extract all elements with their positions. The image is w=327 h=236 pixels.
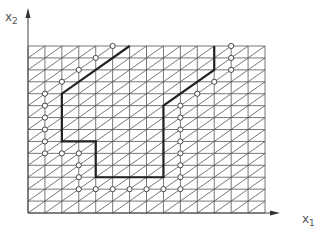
grid-diagonal-line [147, 118, 164, 130]
grid-diagonal-line [130, 46, 147, 58]
grid-diagonal-line [147, 165, 164, 177]
grid-diagonal-line [96, 130, 113, 142]
grid-diagonal-line [79, 153, 96, 165]
grid-diagonal-line [180, 177, 197, 189]
grid-diagonal-line [163, 177, 180, 189]
node-circle-icon [178, 115, 183, 120]
grid-diagonal-line [163, 130, 180, 142]
x-axis-label: x1 [302, 212, 315, 228]
node-circle-icon [93, 55, 98, 60]
grid-diagonal-line [248, 106, 265, 118]
node-circle-icon [42, 151, 47, 156]
grid-diagonal-line [96, 46, 113, 58]
grid-diagonal-line [163, 118, 180, 130]
grid-diagonal-line [113, 165, 130, 177]
grid-diagonal-line [62, 46, 79, 58]
grid-diagonal-line [248, 46, 265, 58]
grid-diagonal-line [62, 165, 79, 177]
grid-diagonal-line [45, 58, 62, 70]
node-circle-icon [178, 127, 183, 132]
grid-diagonal-line [214, 70, 231, 82]
grid-diagonal-line [147, 46, 164, 58]
grid-diagonal-line [130, 70, 147, 82]
grid-diagonal-line [28, 177, 45, 189]
grid-diagonal-line [147, 82, 164, 94]
node-circle-icon [76, 151, 81, 156]
grid-diagonal-line [231, 118, 248, 130]
grid-diagonal-line [197, 82, 214, 94]
grid-diagonal-line [147, 189, 164, 201]
grid-diagonal-line [28, 70, 45, 82]
grid-diagonal-line [45, 94, 62, 106]
grid-diagonal-line [79, 82, 96, 94]
node-circle-icon [161, 187, 166, 192]
grid-diagonal-line [231, 177, 248, 189]
grid-diagonal-line [96, 94, 113, 106]
grid-diagonal-line [96, 118, 113, 130]
node-circle-icon [42, 103, 47, 108]
grid-diagonal-line [248, 58, 265, 70]
grid-diagonal-line [79, 118, 96, 130]
grid-diagonal-line [113, 58, 130, 70]
node-circle-icon [178, 187, 183, 192]
grid-diagonal-line [197, 106, 214, 118]
grid-diagonal-line [180, 201, 197, 213]
grid-diagonal-line [113, 70, 130, 82]
grid-diagonal-line [231, 82, 248, 94]
grid-diagonal-line [197, 201, 214, 213]
grid-diagonal-line [28, 141, 45, 153]
grid-diagonal-line [248, 118, 265, 130]
grid-diagonal-line [163, 201, 180, 213]
grid-diagonal-line [231, 153, 248, 165]
grid-diagonal-line [197, 58, 214, 70]
grid-diagonal-line [163, 141, 180, 153]
grid-diagonal-line [113, 189, 130, 201]
grid-diagonal-line [147, 130, 164, 142]
grid-diagonal-line [197, 153, 214, 165]
grid-diagonal-line [248, 141, 265, 153]
node-circle-icon [59, 151, 64, 156]
grid-diagonal-line [248, 201, 265, 213]
node-circle-icon [178, 163, 183, 168]
grid-diagonal-line [45, 177, 62, 189]
node-circle-icon [93, 187, 98, 192]
grid-diagonal-line [130, 82, 147, 94]
grid-diagonal-line [214, 153, 231, 165]
grid-diagonal-line [62, 201, 79, 213]
node-circle-icon [195, 91, 200, 96]
grid-diagonal-line [79, 189, 96, 201]
node-circle-icon [212, 79, 217, 84]
grid-diagonal-line [197, 141, 214, 153]
grid-diagonal-line [45, 153, 62, 165]
grid-diagonal-line [79, 141, 96, 153]
y-axis-arrow-icon [26, 8, 31, 18]
grid-diagonal-line [79, 46, 96, 58]
grid-diagonal-line [163, 46, 180, 58]
grid-diagonal-line [231, 130, 248, 142]
grid-diagonal-line [180, 118, 197, 130]
grid-diagonal-line [62, 177, 79, 189]
node-circle-icon [178, 175, 183, 180]
grid-diagonal-line [28, 106, 45, 118]
y-axis-label: x2 [5, 10, 18, 26]
node-circle-icon [76, 187, 81, 192]
grid-diagonal-line [180, 141, 197, 153]
grid-diagonal-line [28, 46, 45, 58]
grid-diagonal-line [248, 94, 265, 106]
grid-diagonal-line [96, 189, 113, 201]
grid-diagonal-line [130, 106, 147, 118]
grid-diagonal-line [28, 82, 45, 94]
node-circle-icon [229, 55, 234, 60]
grid-diagonal-line [130, 141, 147, 153]
grid-diagonal-line [231, 70, 248, 82]
grid-diagonal-line [248, 177, 265, 189]
grid-diagonal-line [28, 118, 45, 130]
grid-diagonal-line [79, 94, 96, 106]
node-circle-icon [110, 43, 115, 48]
grid-diagonal-line [28, 94, 45, 106]
grid-diagonal-line [147, 94, 164, 106]
grid-diagonal-line [214, 46, 231, 58]
grid-diagonal-line [163, 82, 180, 94]
grid-diagonal-line [180, 153, 197, 165]
grid-diagonal-line [79, 177, 96, 189]
